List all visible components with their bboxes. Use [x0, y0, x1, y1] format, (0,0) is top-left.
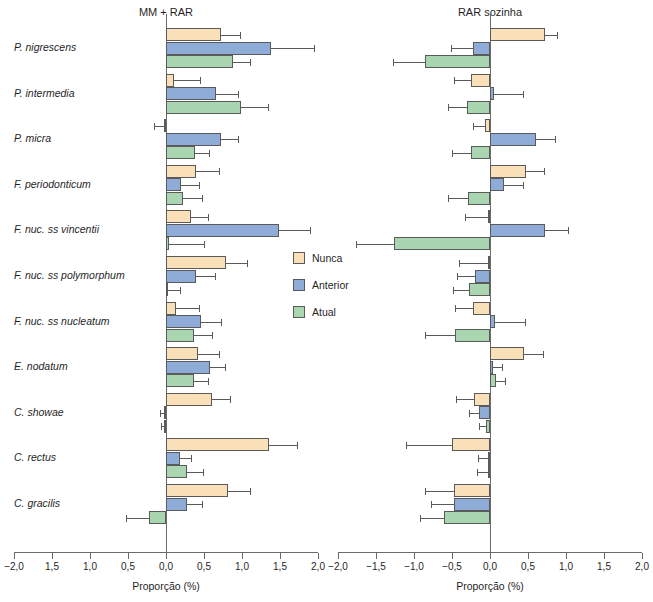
error-bar-p0-g0-anterior [271, 48, 314, 49]
error-bar-p1-g6-anterior [495, 322, 525, 323]
x-axis-tick-p1-1 [376, 553, 377, 559]
error-cap-p0-g0-atual [250, 59, 251, 66]
error-bar-p1-g4-nunca [465, 217, 488, 218]
error-cap-p1-g10-anterior [431, 501, 432, 508]
error-bar-p0-g3-atual [183, 198, 202, 199]
x-axis-tick-p0-7 [280, 553, 281, 559]
error-cap-p1-g6-nunca [455, 305, 456, 312]
bar-p0-g7-anterior [166, 361, 210, 374]
error-cap-p0-g6-anterior [221, 319, 222, 326]
error-bar-p1-g10-atual [420, 518, 444, 519]
error-bar-p0-g10-anterior [187, 504, 202, 505]
x-axis-tick-label-p0-5: 0,5 [184, 561, 224, 572]
figure-root: MM + RARRAR sozinhaP. nigrescensP. inter… [0, 0, 653, 602]
error-bar-p0-g7-nunca [198, 354, 219, 355]
error-bar-p1-g4-anterior [545, 230, 568, 231]
error-cap-p0-g3-anterior [199, 182, 200, 189]
bar-p1-g8-anterior [479, 406, 490, 419]
error-cap-p1-g6-atual [425, 332, 426, 339]
error-cap-p0-g1-atual [268, 104, 269, 111]
bar-p1-g0-atual [425, 55, 490, 68]
error-cap-p1-g7-nunca [543, 351, 544, 358]
x-axis-tick-label-p0-2: 1,0 [70, 561, 110, 572]
x-axis-title-panel-0: Proporção (%) [76, 580, 256, 592]
error-bar-p1-g3-atual [448, 198, 468, 199]
error-cap-p1-g4-atual [356, 241, 357, 248]
error-bar-p1-g9-nunca [406, 445, 452, 446]
error-bar-p0-g2-atual [195, 153, 209, 154]
error-cap-p0-g4-nunca [208, 214, 209, 221]
x-axis-title-panel-1: Proporção (%) [400, 580, 580, 592]
error-cap-p0-g2-anterior [238, 136, 239, 143]
error-bar-p1-g6-atual [425, 335, 455, 336]
bar-p0-g10-nunca [166, 484, 228, 497]
error-cap-p1-g8-atual [479, 423, 480, 430]
bar-p0-g8-anterior [164, 406, 166, 419]
error-bar-p1-g5-anterior [457, 276, 475, 277]
bar-p1-g10-atual [444, 511, 490, 524]
error-bar-p0-g0-nunca [221, 35, 240, 36]
error-cap-p1-g9-atual [477, 469, 478, 476]
legend-swatch-atual [293, 306, 305, 318]
bar-p0-g2-nunca [164, 119, 166, 132]
error-bar-p1-g2-anterior [536, 139, 555, 140]
error-cap-p1-g10-atual [420, 515, 421, 522]
bar-p1-g6-nunca [473, 302, 490, 315]
bar-p1-g2-atual [471, 146, 490, 159]
x-axis-tick-p0-6 [242, 553, 243, 559]
error-cap-p0-g7-nunca [219, 351, 220, 358]
error-cap-p0-g0-anterior [314, 45, 315, 52]
x-axis-tick-p0-3 [128, 553, 129, 559]
error-bar-p1-g1-nunca [454, 80, 471, 81]
error-bar-p1-g5-nunca [459, 263, 488, 264]
error-cap-p0-g10-anterior [202, 501, 203, 508]
error-cap-p1-g3-atual [448, 195, 449, 202]
x-axis-tick-p1-4 [490, 553, 491, 559]
bar-p0-g3-nunca [166, 165, 196, 178]
error-bar-p0-g6-atual [194, 335, 212, 336]
bar-p1-g5-nunca [488, 256, 490, 269]
error-cap-p1-g2-nunca [473, 123, 474, 130]
bar-p0-g9-nunca [166, 438, 269, 451]
error-cap-p1-g0-atual [393, 59, 394, 66]
error-bar-p0-g1-atual [241, 107, 268, 108]
error-bar-p0-g2-nunca [154, 126, 164, 127]
error-cap-p1-g1-atual [448, 104, 449, 111]
error-cap-p1-g7-atual [505, 378, 506, 385]
error-bar-p0-g3-anterior [181, 185, 198, 186]
bar-p0-g2-atual [166, 146, 195, 159]
error-bar-p0-g10-nunca [228, 491, 251, 492]
bar-p1-g0-anterior [473, 42, 490, 55]
error-cap-p1-g5-nunca [459, 260, 460, 267]
error-bar-p1-g7-anterior [493, 367, 502, 368]
error-bar-p1-g3-anterior [504, 185, 523, 186]
error-bar-p0-g2-anterior [221, 139, 238, 140]
error-bar-p1-g3-nunca [526, 171, 544, 172]
x-axis-tick-label-p1-3: −0,5 [432, 561, 472, 572]
bar-p0-g4-anterior [166, 224, 279, 237]
error-cap-p1-g0-anterior [451, 45, 452, 52]
x-axis-tick-p0-8 [318, 553, 319, 559]
error-cap-p0-g8-anterior [160, 410, 161, 417]
species-label-8: C. showae [14, 406, 64, 418]
bar-p0-g1-anterior [166, 87, 216, 100]
error-cap-p1-g1-nunca [454, 77, 455, 84]
error-cap-p0-g5-anterior [215, 273, 216, 280]
error-cap-p1-g5-anterior [457, 273, 458, 280]
error-bar-p1-g2-nunca [473, 126, 484, 127]
bar-p1-g1-nunca [471, 74, 490, 87]
error-cap-p0-g7-atual [208, 378, 209, 385]
bar-p1-g2-anterior [490, 133, 536, 146]
bar-p0-g0-anterior [166, 42, 271, 55]
error-bar-p0-g4-anterior [279, 230, 310, 231]
error-bar-p0-g3-nunca [196, 171, 219, 172]
species-label-3: F. periodonticum [14, 178, 91, 190]
error-cap-p0-g5-atual [180, 287, 181, 294]
bar-p0-g5-anterior [166, 270, 196, 283]
species-label-0: P. nigrescens [14, 41, 76, 53]
error-cap-p0-g9-nunca [297, 442, 298, 449]
x-axis-tick-label-p0-0: −2,0 [0, 561, 34, 572]
error-cap-p0-g2-nunca [154, 123, 155, 130]
bar-p1-g8-atual [486, 420, 490, 433]
error-cap-p1-g0-nunca [557, 32, 558, 39]
